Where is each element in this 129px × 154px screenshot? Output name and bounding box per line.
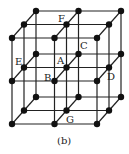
lattice-point [118,51,124,57]
cubic-lattice-diagram: F C E A B D G (b) [0,0,129,154]
lattice-point [63,107,69,113]
lattice-point [118,94,124,100]
lattice-point [9,35,15,41]
lattice-point [106,64,112,70]
label-c: C [80,41,88,51]
label-d: D [107,72,115,82]
lattice-point [106,21,112,27]
lattice-point [94,78,100,84]
lattice-point [33,94,39,100]
lattice-point [118,8,124,14]
lattice-point [75,8,81,14]
label-e: E [15,57,22,67]
lattice-point [51,78,57,84]
lattice-point [106,107,112,113]
lattice-point [94,121,100,127]
lattice-point [51,35,57,41]
lattice-point [33,51,39,57]
label-g: G [66,115,74,125]
lattice-point [63,64,69,70]
label-a: A [57,56,64,66]
lattice-point [33,8,39,14]
lattice-point [9,78,15,84]
lattice-point [75,94,81,100]
lattice-point [21,107,27,113]
figure-caption: (b) [57,136,71,146]
lattice-point [94,35,100,41]
label-f: F [58,14,65,24]
label-b: B [44,73,51,83]
lattice-point [21,21,27,27]
lattice-point [9,121,15,127]
lattice-point [51,121,57,127]
lattice-point [75,51,81,57]
